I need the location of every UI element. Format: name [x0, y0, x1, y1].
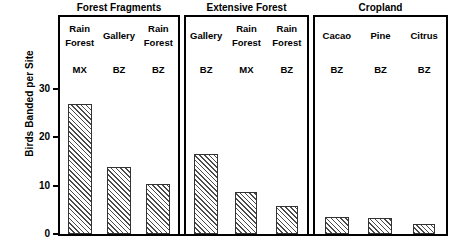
category-country-code: BZ: [359, 64, 403, 76]
category-label: Citrus: [402, 29, 446, 43]
category-country-code: MX: [226, 64, 266, 76]
category-label-line1: Rain: [267, 22, 307, 36]
category-country-code: MX: [60, 64, 99, 76]
category-label-line2: Forest: [139, 36, 178, 50]
category-label: Rain Forest: [60, 22, 99, 50]
category-label: Rain Forest: [226, 22, 266, 50]
bar: [146, 184, 170, 234]
category-label-line1: Citrus: [402, 29, 446, 43]
bar-group: Rain Forest BZ: [139, 17, 178, 234]
category-label-line1: Pine: [359, 29, 403, 43]
category-label: Gallery: [99, 29, 138, 43]
category-label-line1: Gallery: [186, 29, 226, 43]
bar: [194, 154, 218, 234]
category-label: Rain Forest: [139, 22, 178, 50]
category-country-code: BZ: [267, 64, 307, 76]
category-label-line1: Rain: [139, 22, 178, 36]
category-label: Rain Forest: [267, 22, 307, 50]
bar-group: Pine BZ: [359, 17, 403, 234]
category-label-line2: Forest: [226, 36, 266, 50]
bar: [235, 192, 257, 235]
bar-chart-figure: Birds Banded per Site 30 20 10 0 Forest …: [0, 0, 474, 247]
category-country-code: BZ: [186, 64, 226, 76]
bar-group: Citrus BZ: [402, 17, 446, 234]
category-label: Cacao: [315, 29, 359, 43]
category-label-line1: Rain: [226, 22, 266, 36]
category-label-line1: Cacao: [315, 29, 359, 43]
category-country-code: BZ: [99, 64, 138, 76]
bar-group: Rain Forest MX: [226, 17, 266, 234]
category-label-line1: Gallery: [99, 29, 138, 43]
panel-cropland: Cropland Cacao BZ Pine BZ Cit: [313, 15, 448, 236]
y-tick-label-30: 30: [30, 84, 50, 94]
panel-title: Cropland: [315, 2, 446, 14]
y-tick-label-10: 10: [30, 181, 50, 191]
y-tick-label-20: 20: [30, 132, 50, 142]
category-label-line2: Forest: [267, 36, 307, 50]
bar-group: Rain Forest MX: [60, 17, 99, 234]
bar: [325, 217, 349, 235]
category-label-line2: Forest: [60, 36, 99, 50]
panel-columns: Cacao BZ Pine BZ Citrus BZ: [315, 17, 446, 234]
bar: [107, 167, 131, 235]
bar: [368, 218, 392, 235]
bar: [276, 206, 298, 234]
panel-columns: Rain Forest MX Gallery BZ Rain Forest: [60, 17, 178, 234]
panel-title: Forest Fragments: [60, 2, 178, 14]
category-label: Pine: [359, 29, 403, 43]
panel-extensive-forest: Extensive Forest Gallery BZ Rain Forest …: [184, 15, 309, 236]
x-axis-baseline: [58, 234, 448, 236]
bar-group: Rain Forest BZ: [267, 17, 307, 234]
panel-forest-fragments: Forest Fragments Rain Forest MX Gallery …: [58, 15, 180, 236]
y-axis-title: Birds Banded per Site: [24, 24, 35, 184]
bar: [413, 224, 435, 234]
bar-group: Gallery BZ: [99, 17, 138, 234]
panel-columns: Gallery BZ Rain Forest MX Rain Forest: [186, 17, 307, 234]
category-country-code: BZ: [402, 64, 446, 76]
bar: [68, 104, 92, 234]
category-country-code: BZ: [315, 64, 359, 76]
category-label-line1: Rain: [60, 22, 99, 36]
category-label: Gallery: [186, 29, 226, 43]
y-tick-label-0: 0: [30, 229, 50, 239]
bar-group: Cacao BZ: [315, 17, 359, 234]
category-country-code: BZ: [139, 64, 178, 76]
bar-group: Gallery BZ: [186, 17, 226, 234]
panel-title: Extensive Forest: [186, 2, 307, 14]
